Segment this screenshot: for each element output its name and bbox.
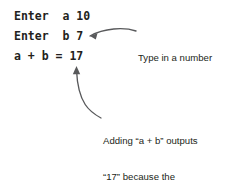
- annotation-type-in-a-number: Type in a number: [138, 28, 212, 88]
- curved-arrow-left-icon: [90, 29, 136, 40]
- annotation-adding-outputs-explanation: Adding “a + b” outputs “17” because the …: [103, 111, 198, 184]
- annotation-bottom-line-1: Adding “a + b” outputs: [103, 135, 198, 147]
- curved-arrow-up-icon: [73, 66, 101, 118]
- annotation-top-line-1: Type in a number: [138, 52, 212, 64]
- annotated-code-figure: Enter a 10 Enter b 7 a + b = 17 Type in …: [0, 0, 227, 184]
- annotation-bottom-line-2: “17” because the: [103, 171, 198, 183]
